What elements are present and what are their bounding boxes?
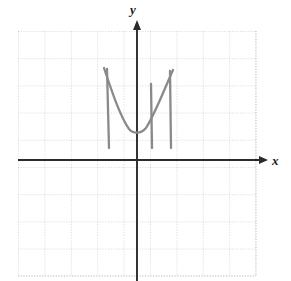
plot-canvas bbox=[0, 0, 291, 281]
graph-figure: y x bbox=[0, 0, 291, 281]
y-axis-label: y bbox=[130, 3, 136, 16]
x-axis-label: x bbox=[272, 154, 279, 167]
vertical-segment-middle bbox=[151, 84, 152, 148]
vertical-segment-right bbox=[170, 71, 171, 148]
